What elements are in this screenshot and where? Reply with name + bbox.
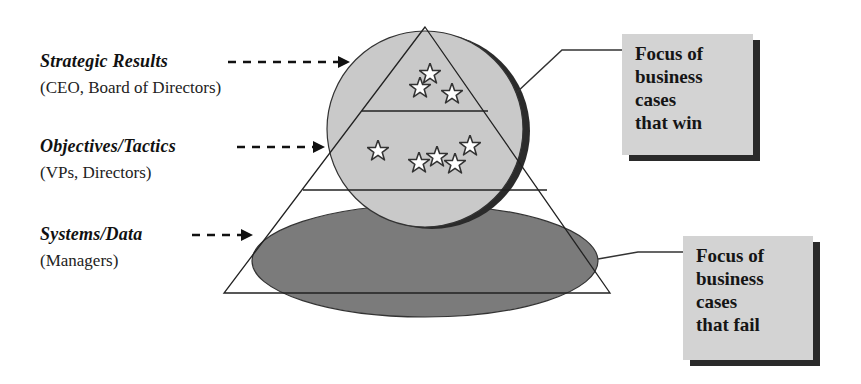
callout-win: Focus of business cases that win [622,34,753,155]
level-title-objectives-tactics: Objectives/Tactics [40,136,176,157]
level-audience-systems-data: (Managers) [40,251,118,271]
arrow-strategic-results [228,56,350,68]
connector-fail [598,252,683,259]
level-title-systems-data: Systems/Data [40,224,142,245]
connector-win [516,50,622,93]
arrow-systems-data [192,229,253,241]
callout-fail-text: Focus of business cases that fail [696,244,764,336]
callout-win-text: Focus of business cases that win [635,42,703,134]
level-title-strategic-results: Strategic Results [40,51,168,72]
level-audience-objectives-tactics: (VPs, Directors) [40,163,151,183]
arrow-objectives-tactics [237,141,325,153]
level-audience-strategic-results: (CEO, Board of Directors) [40,78,221,98]
callout-fail: Focus of business cases that fail [683,236,813,360]
strategic-objectives-circle [327,31,523,227]
